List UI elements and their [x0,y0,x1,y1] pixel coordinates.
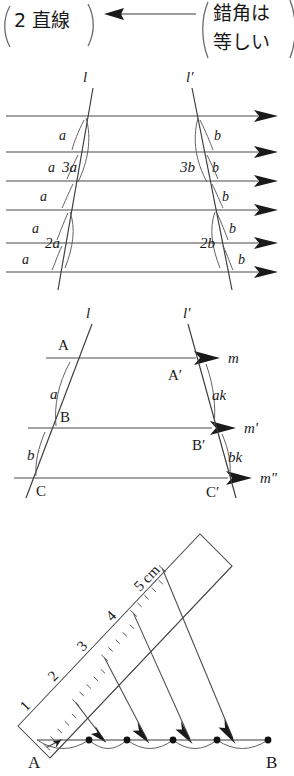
label-B-prime: B′ [192,437,205,453]
label-l-left-2: l [86,305,90,321]
label-A-prime: A′ [168,367,182,383]
division-arc-5 [217,740,268,749]
page-root: 2 直線 錯角は 等しい l [0,0,294,776]
ruler-mark-1: 1 [17,698,34,715]
left-bubble-close-bracket [88,4,93,46]
label-a-3: a [40,189,47,204]
transfer-line-3 [105,658,147,739]
label-B: B [60,409,70,425]
transfer-line-4 [134,613,191,739]
right-bubble-close-bracket [290,0,294,58]
label-a-5: a [22,252,29,267]
arc-left-3 [62,184,73,208]
label-C: C [36,483,46,499]
division-dot-4 [214,737,221,744]
label-2a: 2a [45,235,60,251]
transfer-line-5 [162,569,233,739]
right-bubble-open-bracket [203,2,208,58]
label-A: A [58,337,69,353]
left-bubble-open-bracket [5,6,10,47]
label-b-1: b [214,128,221,143]
figure-3-ruler-construction: 1 2 3 4 5 cm [0,518,294,776]
label-m: m [228,350,239,366]
label-a-fig2: a [50,386,58,402]
arc-right-5 [223,246,233,270]
arc-right-4 [217,213,228,240]
ruler-body [18,534,232,758]
label-bk: bk [228,449,243,465]
right-bubble-line1: 錯角は [213,2,270,24]
division-dot-1 [86,737,93,744]
label-2b: 2b [200,235,216,251]
right-bubble-line2: 等しい [213,31,270,53]
label-l-right-2: l′ [183,305,191,321]
ruler-mark-2: 2 [45,668,62,685]
transversal-left [58,88,93,290]
label-l-left: l [83,69,87,85]
label-b-2: b [212,160,219,175]
division-dot-5 [265,737,272,744]
label-ak: ak [212,387,227,403]
label-a-1: a [59,128,66,143]
label-b-fig2: b [27,447,35,463]
label-3a: 3a [61,159,77,175]
label-m-double-prime: m″ [260,470,278,486]
arc-left-3a [78,118,89,182]
label-m-prime: m′ [244,420,259,436]
label-a-4: a [32,221,39,236]
label-3b: 3b [179,159,196,175]
left-arrow-icon [104,8,124,20]
ruler-ticks [44,566,166,751]
endpoint-label-A: A [28,753,41,772]
division-arc-4 [173,740,217,749]
label-b-5: b [238,252,245,267]
arc-right-1 [200,120,213,150]
division-dot-2 [124,737,131,744]
label-b-4: b [229,221,236,236]
banner-figure: 2 直線 錯角は 等しい [0,0,294,60]
arc-right-3b [195,118,207,182]
figure-1-parallel-angles: l a a 3a a a 2a a l′ b 3b b b b 2b b [0,62,294,292]
label-C-prime: C′ [206,484,219,500]
label-l-right: l′ [186,69,194,85]
division-arc-2 [89,740,127,749]
left-bubble-text: 2 直線 [14,9,70,31]
endpoint-label-B: B [266,753,277,772]
figure-2-segment-division: m m′ m″ l l′ a b ak bk A B C A′ B′ C′ [0,300,294,510]
arc-left-1 [72,120,84,150]
division-arc-3 [127,740,173,749]
label-b-3: b [222,189,229,204]
division-dot-3 [170,737,177,744]
label-a-2: a [48,160,55,175]
